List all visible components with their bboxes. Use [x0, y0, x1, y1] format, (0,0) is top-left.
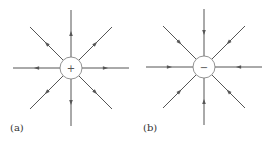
charge-sign: − — [200, 62, 208, 73]
arrow-icon — [167, 65, 172, 69]
arrow-icon — [103, 66, 108, 70]
arrow-icon — [202, 30, 206, 35]
arrow-icon — [202, 99, 206, 104]
arrow-icon — [34, 66, 39, 70]
charge-sign: + — [67, 63, 75, 74]
arrow-icon — [69, 100, 73, 105]
negative-charge-panel: − — [146, 9, 262, 125]
panel-a-label: (a) — [10, 122, 24, 133]
arrow-icon — [69, 31, 73, 36]
positive-charge-panel: + — [13, 10, 129, 126]
field-lines-diagram: + − — [0, 0, 273, 147]
panel-b-label: (b) — [143, 122, 157, 133]
arrow-icon — [236, 65, 241, 69]
